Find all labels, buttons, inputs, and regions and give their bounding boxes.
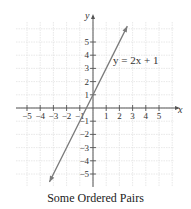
x-tick-label: 5 <box>157 111 162 121</box>
coordinate-plane: −5−4−3−2−112345 −5−4−3−2−112345 x y y = … <box>0 0 191 190</box>
y-tick-label: −3 <box>79 143 89 153</box>
x-tick-label: 1 <box>104 111 109 121</box>
x-tick-label: −4 <box>35 111 45 121</box>
x-tick-label: −3 <box>49 111 59 121</box>
y-tick-label: 1 <box>85 90 90 100</box>
chart-caption: Some Ordered Pairs <box>0 191 191 206</box>
y-tick-label: −4 <box>79 156 89 166</box>
x-tick-label: 3 <box>130 111 135 121</box>
grid-lines <box>16 22 174 187</box>
x-tick-label: 4 <box>144 111 149 121</box>
x-axis-label: x <box>177 104 183 115</box>
x-tick-labels: −5−4−3−2−112345 <box>22 111 162 121</box>
x-tick-label: −5 <box>22 111 32 121</box>
y-tick-label: −5 <box>79 169 89 179</box>
y-tick-label: 5 <box>85 37 90 47</box>
arrowhead-icon <box>122 26 127 32</box>
y-axis-label: y <box>84 10 90 21</box>
equation-label: y = 2x + 1 <box>113 54 158 66</box>
x-tick-label: 2 <box>117 111 122 121</box>
y-tick-label: 4 <box>85 50 90 60</box>
y-tick-label: 2 <box>85 77 90 87</box>
x-tick-label: −2 <box>62 111 72 121</box>
y-tick-label: −2 <box>79 129 89 139</box>
y-tick-label: 3 <box>85 63 90 73</box>
